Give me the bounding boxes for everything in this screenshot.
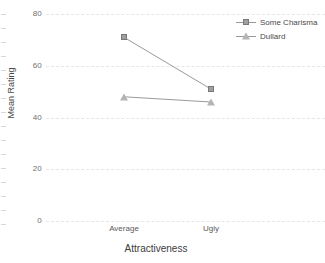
data-point-some-charisma-ugly (208, 86, 214, 92)
gridline (46, 169, 325, 170)
legend-item-some-charisma[interactable]: Some Charisma (236, 16, 325, 29)
line-chart: Mean Rating 80 60 40 20 0 Average Ugly A… (0, 0, 325, 263)
gridline (46, 221, 325, 222)
y-tick-label: 0 (2, 217, 42, 225)
y-tick-label: 40 (2, 114, 42, 122)
data-point-dullard-average (120, 93, 128, 100)
chart-legend: Some Charisma Dullard (236, 16, 325, 44)
gridline (46, 14, 325, 15)
x-axis-ticks: Average Ugly (46, 224, 325, 236)
x-tick-label-ugly: Ugly (203, 224, 219, 233)
x-tick-label-average: Average (109, 224, 139, 233)
x-axis-title: Attractiveness (46, 243, 266, 254)
y-tick-label: 60 (2, 62, 42, 70)
gridline (46, 66, 325, 67)
plot-area (46, 14, 325, 221)
legend-item-dullard[interactable]: Dullard (236, 30, 325, 43)
y-axis-ticks: 80 60 40 20 0 (0, 14, 42, 221)
data-point-dullard-ugly (207, 99, 215, 106)
legend-label: Dullard (260, 32, 285, 41)
legend-label: Some Charisma (260, 18, 317, 27)
square-marker-icon (236, 17, 256, 28)
triangle-marker-icon (236, 31, 256, 42)
y-tick-label: 20 (2, 165, 42, 173)
gridline (46, 118, 325, 119)
y-tick-label: 80 (2, 10, 42, 18)
data-point-some-charisma-average (121, 34, 127, 40)
